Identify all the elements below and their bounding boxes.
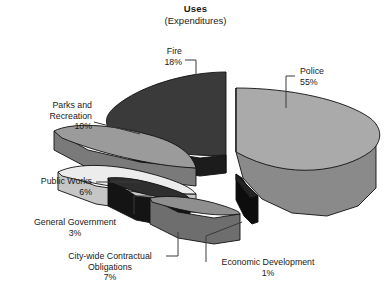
police-slice-top [236, 88, 380, 170]
pie-chart-figure: Uses (Expenditures) [0, 0, 391, 304]
pie-chart-graphic [0, 0, 391, 304]
pie-slice-citywide-contractual-obligations [150, 196, 240, 244]
